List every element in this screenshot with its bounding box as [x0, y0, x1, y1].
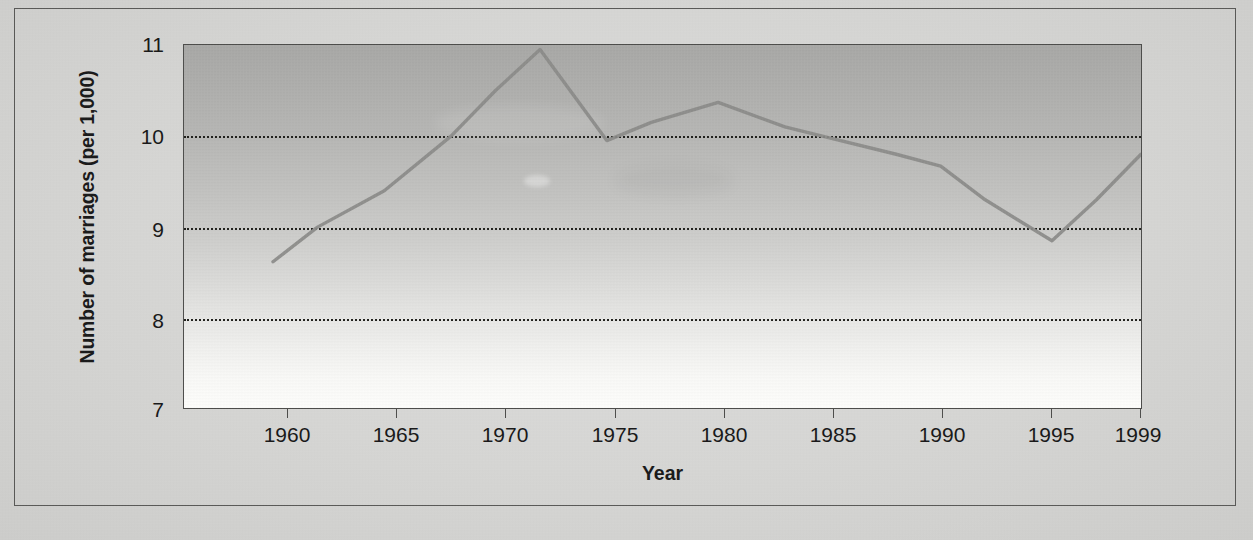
x-tick-label: 1975: [570, 424, 660, 445]
x-tick-label: 1980: [679, 424, 769, 445]
y-tick-label: 7: [118, 399, 164, 420]
x-tick: [396, 409, 397, 418]
x-tick-label: 1985: [788, 424, 878, 445]
y-tick-label: 10: [118, 126, 164, 147]
x-tick: [833, 409, 834, 418]
x-tick-label: 1960: [242, 424, 332, 445]
marriage-rate-line: [273, 50, 1141, 262]
series-line-chart: [184, 45, 1141, 409]
x-tick: [942, 409, 943, 418]
x-tick: [1140, 409, 1141, 418]
x-tick: [1051, 409, 1052, 418]
x-tick-label: 1970: [460, 424, 550, 445]
x-axis-title: Year: [183, 464, 1142, 484]
x-tick: [724, 409, 725, 418]
x-tick-label: 1990: [897, 424, 987, 445]
x-tick-label: 1965: [351, 424, 441, 445]
figure-page: Number of marriages (per 1,000) 11 10 9 …: [0, 0, 1253, 540]
plot-area: [183, 44, 1142, 409]
x-tick-label: 1999: [1093, 424, 1183, 445]
y-tick-label: 9: [118, 219, 164, 240]
y-tick-label: 11: [118, 34, 164, 55]
x-tick: [615, 409, 616, 418]
y-tick-label: 8: [118, 310, 164, 331]
x-tick-label: 1995: [1006, 424, 1096, 445]
x-tick: [505, 409, 506, 418]
x-tick: [287, 409, 288, 418]
y-axis-title: Number of marriages (per 1,000): [74, 22, 100, 412]
